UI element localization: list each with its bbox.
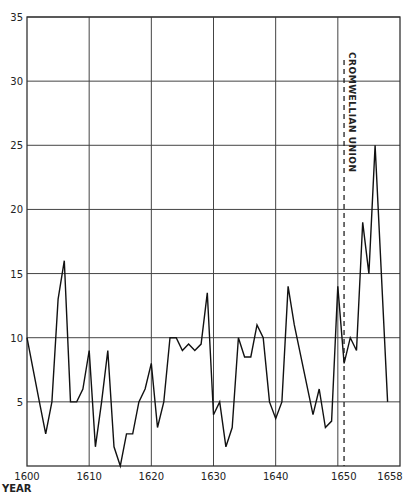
y-tick-label: 35	[10, 12, 23, 23]
x-tick-label: 1630	[201, 471, 226, 482]
x-tick-label: 1620	[139, 471, 164, 482]
cromwellian-union-label: CROMWELLIAN UNION	[347, 52, 357, 173]
y-tick-label: 30	[10, 76, 23, 87]
x-tick-label: 1610	[76, 471, 101, 482]
y-axis-labels: 5101520253035	[10, 12, 23, 408]
x-tick-label: 1650	[331, 471, 356, 482]
x-tick-label: 1600	[14, 471, 39, 482]
x-tick-label: 1640	[263, 471, 288, 482]
y-tick-label: 10	[10, 333, 23, 344]
line-chart: 5101520253035 16001610162016301640165016…	[0, 0, 414, 496]
x-axis-title: YEAR	[1, 483, 32, 494]
x-tick-label: 1658	[377, 471, 402, 482]
y-tick-label: 15	[10, 269, 23, 280]
y-tick-label: 5	[17, 397, 23, 408]
y-tick-label: 20	[10, 204, 23, 215]
y-tick-label: 25	[10, 140, 23, 151]
data-series-line	[27, 145, 388, 466]
x-axis-labels: 1600161016201630164016501658	[14, 471, 402, 482]
